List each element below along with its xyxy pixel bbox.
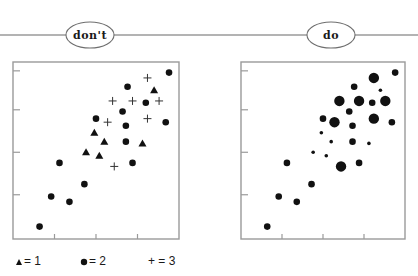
sized-circle-marker (346, 108, 353, 115)
triangle-marker (82, 148, 90, 155)
circle-marker (66, 199, 73, 206)
circle-marker (124, 83, 131, 90)
plus-marker (143, 115, 151, 123)
triangle-marker (150, 86, 158, 93)
sized-circle-marker (379, 89, 383, 93)
circle-marker (129, 160, 136, 167)
plus-marker (110, 162, 118, 170)
do-header-label: do (323, 29, 339, 42)
sized-circle-marker (308, 181, 315, 188)
data-points (36, 69, 172, 230)
circle-marker (36, 223, 43, 230)
sized-circle-marker (336, 161, 346, 171)
sized-circle-marker (369, 73, 379, 83)
sized-circle-marker (275, 193, 282, 200)
sized-circle-marker (389, 119, 396, 126)
circle-marker (123, 122, 130, 129)
circle-marker (81, 181, 88, 188)
plus-marker (129, 97, 137, 105)
triangle-marker (95, 152, 103, 159)
plus-marker (109, 97, 117, 105)
sized-circle-marker (284, 160, 291, 167)
plus-marker (143, 74, 151, 82)
sized-circle-marker (293, 199, 300, 206)
plus-marker (104, 118, 112, 126)
plus-marker (155, 97, 163, 105)
sized-circle-marker (351, 83, 358, 90)
circle-marker (162, 119, 169, 126)
dont-header-badge: don't (66, 22, 114, 48)
sized-circle-marker (367, 142, 371, 146)
circle-marker (48, 193, 55, 200)
legend-label: = 2 (89, 254, 106, 268)
triangle-marker (100, 138, 108, 145)
legend-label: + = 3 (148, 254, 176, 268)
circle-marker (143, 99, 150, 106)
dont-header-label: don't (73, 29, 107, 42)
do-scatter-plot (241, 62, 405, 239)
legend-item-triangle: = 1 (16, 254, 41, 268)
sized-circle-marker (334, 96, 344, 106)
sized-circle-marker (356, 160, 363, 167)
circle-marker (93, 115, 100, 122)
axis-ticks (241, 71, 364, 239)
sized-circle-marker (392, 69, 399, 76)
circle-icon (81, 259, 87, 265)
do-header-badge: do (307, 22, 355, 48)
sized-circle-marker (324, 154, 328, 158)
chart-canvas: don't do = 1 = 2 + = 3 (0, 0, 418, 276)
sized-circle-marker (349, 138, 356, 145)
triangle-marker (90, 129, 98, 136)
legend-label: = 1 (24, 254, 41, 268)
sized-circle-marker (329, 117, 339, 127)
axis-ticks (13, 71, 138, 239)
sized-circle-marker (369, 99, 376, 106)
sized-circle-marker (349, 122, 356, 129)
sized-circle-marker (320, 115, 327, 122)
triangle-marker (138, 139, 146, 146)
data-points (264, 69, 399, 230)
circle-marker (56, 160, 63, 167)
circle-marker (119, 108, 126, 115)
sized-circle-marker (264, 223, 271, 230)
circle-marker (123, 138, 130, 145)
dont-scatter-plot (13, 62, 179, 239)
sized-circle-marker (354, 96, 364, 106)
legend: = 1 = 2 + = 3 (16, 254, 176, 268)
sized-circle-marker (320, 131, 324, 135)
triangle-icon (16, 259, 22, 265)
legend-item-circle: = 2 (81, 254, 107, 268)
legend-item-plus: + = 3 (148, 254, 176, 268)
sized-circle-marker (380, 96, 390, 106)
sized-circle-marker (311, 150, 315, 154)
sized-circle-marker (369, 113, 379, 123)
circle-marker (166, 69, 173, 76)
sized-circle-marker (329, 140, 333, 144)
